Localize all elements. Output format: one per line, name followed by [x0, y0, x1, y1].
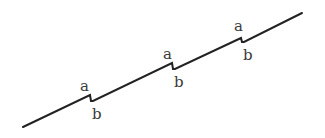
step-1-label-a: a [80, 77, 89, 95]
stepped-line-diagram: a b a b a b [0, 0, 325, 138]
step-1-label-b: b [92, 105, 102, 123]
step-3-label-b: b [243, 46, 253, 64]
stepped-line [23, 13, 302, 127]
step-3-label-a: a [234, 17, 243, 35]
step-2-label-a: a [163, 45, 172, 63]
step-2-label-b: b [174, 73, 184, 91]
